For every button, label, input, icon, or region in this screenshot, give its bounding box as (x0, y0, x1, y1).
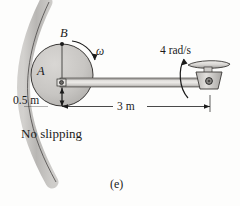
label-no-slipping: No slipping (21, 127, 82, 140)
label-point-b: B (60, 27, 68, 40)
connecting-bar (60, 78, 210, 87)
label-disk-radius: 0.5 m (13, 95, 39, 107)
pin-joint-a (57, 79, 66, 86)
label-support-angular-velocity: 4 rad/s (160, 45, 191, 57)
contact-point-b-marker (60, 42, 64, 46)
label-bar-length: 3 m (117, 101, 135, 113)
label-point-a: A (37, 65, 45, 78)
mechanics-figure: B ω A 0.5 m No slipping 3 m 4 rad/s (e) (0, 0, 240, 206)
figure-sublabel: (e) (110, 178, 123, 190)
label-disk-angular-velocity: ω (96, 46, 104, 58)
